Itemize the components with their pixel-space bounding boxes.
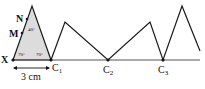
measurement-arrow <box>13 66 50 70</box>
measurement-label: 3 cm <box>21 71 41 82</box>
triangle-path <box>51 6 200 60</box>
point-c2 <box>106 58 109 61</box>
angle-apex: 40° <box>28 27 35 32</box>
label-c1: C1 <box>52 62 63 75</box>
point-n <box>26 18 29 21</box>
point-m <box>21 32 24 35</box>
label-n: N <box>16 13 24 24</box>
label-c3: C3 <box>158 64 169 77</box>
angle-base-left: 70° <box>18 52 25 57</box>
angle-base-right: 70° <box>36 52 43 57</box>
rotating-triangle-diagram: N M X 40° 70° 70° C1 C2 C3 3 cm <box>0 0 205 89</box>
point-c3 <box>161 58 164 61</box>
point-x <box>11 58 14 61</box>
label-x: X <box>1 54 9 65</box>
label-m: M <box>9 28 19 39</box>
label-c2: C2 <box>103 64 114 77</box>
